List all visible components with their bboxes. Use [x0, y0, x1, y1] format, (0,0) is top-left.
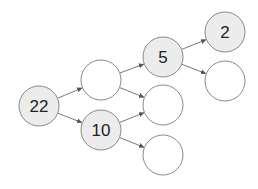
edge-arrow [182, 40, 207, 50]
tree-node-empty [143, 85, 183, 125]
edges-group [57, 40, 206, 148]
edge-arrow [120, 113, 145, 123]
edge-arrow [58, 113, 82, 122]
tree-node-5: 5 [143, 37, 183, 77]
node-label: 5 [158, 48, 167, 67]
edge-arrow [120, 64, 144, 73]
node-circle [143, 135, 183, 175]
node-label: 10 [92, 121, 111, 140]
node-label: 22 [30, 97, 49, 116]
tree-node-empty [81, 60, 121, 100]
node-label: 2 [220, 23, 229, 42]
tree-node-empty [205, 61, 245, 101]
nodes-group: 221052 [19, 12, 245, 175]
node-circle [81, 60, 121, 100]
edge-arrow [182, 64, 206, 73]
node-circle [143, 85, 183, 125]
node-circle [205, 61, 245, 101]
tree-node-2: 2 [205, 12, 245, 52]
tree-node-10: 10 [81, 110, 121, 150]
edge-arrow [120, 138, 145, 148]
edge-arrow [57, 88, 82, 98]
tree-diagram: 221052 [0, 0, 258, 189]
edge-arrow [120, 88, 145, 98]
tree-node-22: 22 [19, 86, 59, 126]
tree-node-empty [143, 135, 183, 175]
